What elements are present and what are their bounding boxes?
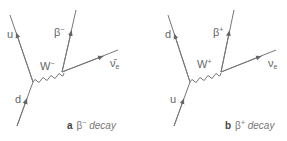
caption-a: aβ− decay (67, 119, 116, 131)
lepton-charge: + (219, 26, 223, 33)
outgoing-quark-label: u (7, 29, 13, 40)
caption-letter: a (67, 120, 73, 131)
caption-text: decay (86, 120, 115, 131)
neutrino-label: ν̄e (110, 58, 119, 70)
neutrino-label: νe (268, 58, 277, 70)
caption-text: decay (245, 120, 274, 131)
boson-symbol: W (40, 60, 50, 72)
boson-symbol: W (197, 58, 207, 70)
boson-label: W− (40, 60, 54, 72)
boson-label: W+ (197, 58, 211, 70)
w-boson-wavy-line (33, 73, 64, 82)
w-boson-wavy-line (190, 73, 221, 82)
caption-b: bβ+ decay (225, 119, 274, 131)
lepton-label: β− (54, 26, 64, 38)
lepton-charge: − (60, 26, 64, 33)
neutrino-subscript: e (116, 63, 120, 70)
incoming-quark-label: u (170, 94, 176, 105)
incoming-quark-label: d (15, 94, 21, 105)
lepton-label: β+ (213, 26, 223, 38)
boson-charge: − (50, 60, 54, 67)
caption-letter: b (225, 120, 231, 131)
boson-charge: + (207, 58, 211, 65)
neutrino-subscript: e (274, 63, 278, 70)
outgoing-quark-label: d (165, 29, 171, 40)
